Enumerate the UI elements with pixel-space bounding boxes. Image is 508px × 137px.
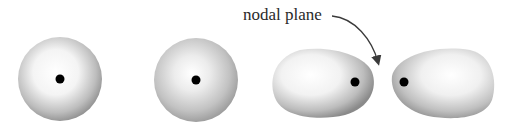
- orbital-diagram: nodal plane: [0, 0, 508, 137]
- nucleus-dot: [192, 76, 201, 85]
- spherical-orbital-2: [154, 38, 238, 122]
- nucleus-dot: [400, 78, 409, 87]
- nucleus-dot: [56, 75, 65, 84]
- spherical-orbital-1: [18, 37, 102, 121]
- lobe-right: [392, 49, 494, 119]
- nucleus-dot: [351, 78, 360, 87]
- nodal-plane-label: nodal plane: [243, 5, 322, 24]
- lobe-left: [272, 49, 374, 118]
